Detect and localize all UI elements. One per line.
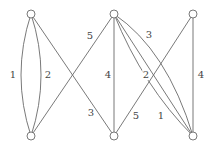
edge-label-bl-tm: 5: [86, 31, 93, 41]
edge-label-tr-bm: 5: [132, 111, 139, 121]
graph-diagram: 1 2 3 5 4 2 1 3 5 4: [0, 0, 214, 150]
edge-label-tr-br: 4: [197, 70, 204, 80]
edge-label-tm-br-straight: 1: [157, 111, 164, 121]
edge-label-tl-bl-left: 1: [9, 70, 16, 80]
edge-label-tl-bm: 3: [87, 108, 94, 118]
node-top-right: [189, 10, 197, 18]
edge-tl-bl-left: [21, 14, 31, 136]
edge-tl-bl-right: [31, 14, 41, 136]
edge-label-tl-bl-right: 2: [44, 70, 51, 80]
node-bottom-right: [189, 132, 197, 140]
node-top-middle: [110, 10, 118, 18]
edge-label-tm-br-left: 2: [142, 70, 149, 80]
node-top-left: [27, 10, 35, 18]
edge-label-tm-br-right: 3: [145, 30, 152, 40]
edge-label-tm-bm: 4: [104, 70, 111, 80]
node-bottom-left: [27, 132, 35, 140]
node-bottom-middle: [110, 132, 118, 140]
